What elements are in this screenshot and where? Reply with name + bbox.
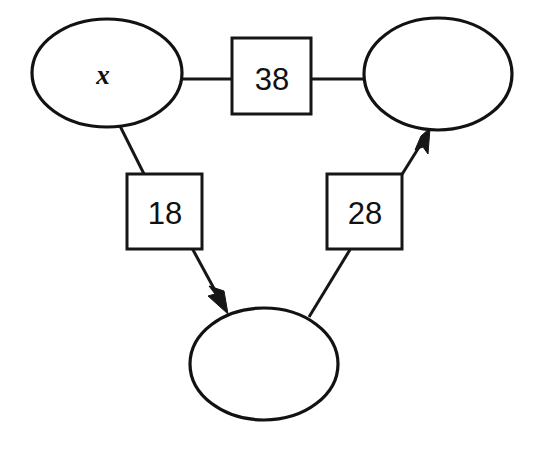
node-bottom-ellipse[interactable]	[190, 308, 338, 420]
edge-bottom-to-box28	[309, 248, 351, 317]
edge-box-28-label: 28	[348, 196, 382, 231]
edge-box-28[interactable]: 28	[327, 174, 402, 249]
arrowhead-into-bottom-node	[208, 286, 228, 314]
edge-box-18[interactable]: 18	[127, 174, 202, 249]
node-top-left-label: x	[95, 60, 110, 90]
edge-box-18-label: 18	[148, 196, 182, 231]
diagram-canvas: x 38 18 28	[0, 0, 543, 462]
node-bottom[interactable]	[190, 308, 338, 420]
edge-box-38[interactable]: 38	[232, 38, 311, 114]
edge-box-38-label: 38	[255, 62, 289, 97]
node-top-right-ellipse[interactable]	[364, 18, 512, 130]
diagram-svg: x 38 18 28	[0, 0, 543, 462]
edge-topleft-to-box18	[119, 124, 145, 176]
node-top-left[interactable]: x	[32, 19, 182, 127]
node-top-right[interactable]	[364, 18, 512, 130]
